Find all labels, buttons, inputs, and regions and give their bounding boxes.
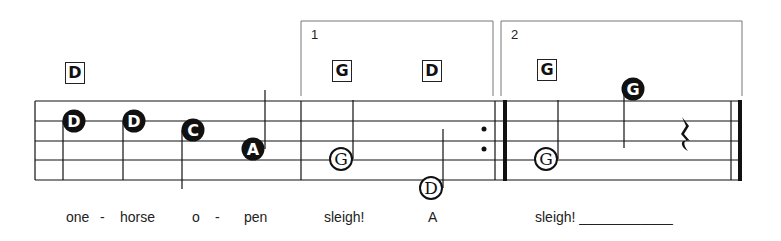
lyric-syllable: sleigh! bbox=[324, 209, 364, 225]
repeat-dot-lower bbox=[482, 147, 487, 152]
svg-text:G: G bbox=[334, 149, 348, 169]
svg-text:D: D bbox=[127, 112, 140, 131]
lyric-syllable: one bbox=[66, 209, 89, 225]
chord-symbol-g: G bbox=[332, 60, 352, 82]
lyric-syllable: - bbox=[215, 209, 220, 225]
lyric-syllable: o bbox=[192, 209, 200, 225]
repeat-dot-upper bbox=[482, 127, 487, 132]
lyric-syllable: pen bbox=[244, 209, 267, 225]
note-g: G bbox=[330, 148, 352, 170]
chord-symbol-g: G bbox=[537, 59, 557, 81]
ending-number: 1 bbox=[311, 27, 318, 42]
lyric-syllable: sleigh! ____________ bbox=[535, 209, 673, 225]
chord-symbol-d: D bbox=[65, 62, 85, 84]
note-g: G bbox=[535, 148, 557, 170]
lyric-syllable: - bbox=[100, 209, 105, 225]
lyric-syllable: A bbox=[428, 209, 437, 225]
svg-text:C: C bbox=[187, 121, 199, 140]
note-d: D bbox=[63, 110, 86, 133]
lyric-syllable: horse bbox=[120, 209, 155, 225]
svg-text:D: D bbox=[424, 178, 438, 198]
ending-brackets bbox=[301, 21, 742, 96]
note-c: C bbox=[182, 119, 205, 142]
note-stems bbox=[63, 89, 624, 189]
ending-number: 2 bbox=[511, 27, 518, 42]
svg-text:G: G bbox=[626, 80, 639, 99]
note-g: G bbox=[622, 78, 645, 101]
ending-bracket bbox=[301, 21, 493, 96]
svg-text:A: A bbox=[247, 140, 260, 159]
note-d: D bbox=[420, 177, 442, 199]
sheet-music-score: DDCAGDGG bbox=[0, 0, 781, 241]
svg-text:D: D bbox=[67, 112, 80, 131]
note-a: A bbox=[242, 138, 265, 161]
note-d: D bbox=[123, 110, 146, 133]
quarter-rest-icon bbox=[681, 117, 690, 151]
svg-text:G: G bbox=[539, 149, 553, 169]
chord-symbol-d: D bbox=[422, 60, 442, 82]
